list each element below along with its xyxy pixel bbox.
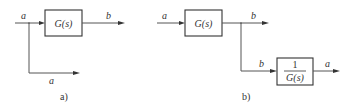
output-label-b: b (251, 10, 256, 21)
arrow-icon (73, 71, 80, 75)
inverse-g-numerator: 1 (293, 59, 298, 70)
arrow-icon (270, 69, 277, 73)
arrow-icon (262, 21, 269, 25)
block-g-label-b: G(s) (195, 18, 213, 30)
arrow-icon (118, 21, 125, 25)
diagram-a: a G(s) b a a) (15, 10, 125, 103)
arrow-icon (333, 69, 340, 73)
branch-output-label-b: a (325, 58, 330, 69)
diagram-b: a G(s) b b 1 G(s) a b) (157, 10, 340, 103)
output-label-a: b (106, 10, 111, 21)
input-label-a: a (21, 10, 26, 21)
branch-label-a: a (49, 75, 54, 86)
arrow-icon (179, 21, 185, 25)
arrow-icon (39, 21, 45, 25)
caption-b: b) (242, 91, 250, 103)
block-diagram: a G(s) b a a) a G(s) b b 1 (0, 0, 355, 109)
block-g-label-a: G(s) (55, 18, 73, 30)
branch-label-b: b (259, 58, 264, 69)
input-label-b: a (162, 10, 167, 21)
caption-a: a) (60, 91, 68, 103)
branch-line-b (241, 23, 273, 71)
inverse-g-denominator: G(s) (286, 72, 304, 84)
